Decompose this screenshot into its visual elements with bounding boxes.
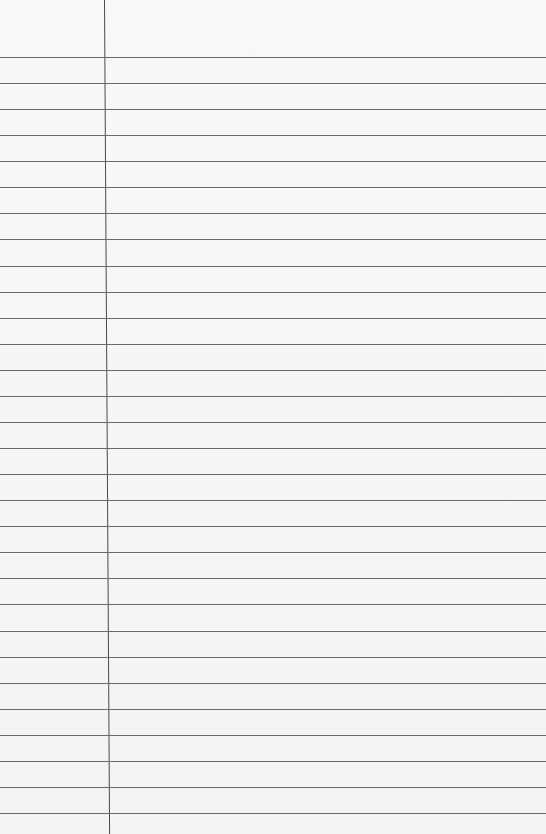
ruled-line [0,631,546,632]
ruled-line [0,292,546,293]
ruled-line [0,709,546,710]
ruled-line [0,239,546,240]
ruled-line [0,683,546,684]
ruled-line [0,761,546,762]
ruled-line [0,526,546,527]
ruled-line [0,604,546,605]
ruled-line [0,266,546,267]
ruled-line [0,813,546,814]
ruled-line [0,396,546,397]
ruled-line [0,448,546,449]
ruled-line [0,187,546,188]
ruled-line [0,657,546,658]
ruled-line [0,161,546,162]
ruled-line [0,578,546,579]
ruled-line [0,474,546,475]
ruled-line [0,370,546,371]
ruled-line [0,213,546,214]
ruled-line [0,109,546,110]
ruled-line [0,500,546,501]
lined-paper [0,0,546,834]
ruled-line [0,57,546,58]
ruled-line [0,83,546,84]
ruled-line [0,552,546,553]
ruled-line [0,735,546,736]
ruled-line [0,422,546,423]
ruled-line [0,787,546,788]
ruled-line [0,135,546,136]
ruled-line [0,318,546,319]
ruled-line [0,344,546,345]
